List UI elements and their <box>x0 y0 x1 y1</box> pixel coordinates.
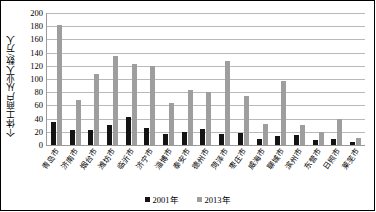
bar <box>169 103 174 145</box>
bar-group <box>309 13 328 145</box>
y-axis-tick: 0 <box>39 141 43 149</box>
bar <box>219 134 224 145</box>
legend-label: 2013年 <box>205 193 231 205</box>
bar-group <box>84 13 103 145</box>
bar-group <box>178 13 197 145</box>
plot-wrapper: 200180160140120100806040200 <box>19 13 367 156</box>
y-axis-title: 个体工商户从业人数/万人 <box>2 11 18 161</box>
bar-group <box>328 13 347 145</box>
bar-group <box>234 13 253 145</box>
bar-group <box>66 13 85 145</box>
x-axis-labels: 青岛市济南市烟台市潍坊市临沂市济宁市淄博市泰安市德州市菏泽市枣庄市威海市聊城市滨… <box>46 147 364 189</box>
bar-group <box>47 13 66 145</box>
bar <box>281 81 286 145</box>
y-axis-tick: 180 <box>30 22 43 30</box>
y-axis-tick: 120 <box>30 62 43 70</box>
y-axis-tick: 140 <box>30 49 43 57</box>
bar-group <box>122 13 141 145</box>
bar <box>113 56 118 145</box>
bar <box>150 66 155 145</box>
bar <box>356 138 361 145</box>
bar-group <box>197 13 216 145</box>
bar <box>94 74 99 145</box>
bar <box>188 90 193 145</box>
y-axis-tick: 160 <box>30 35 43 43</box>
y-axis-tick: 80 <box>35 88 44 96</box>
y-axis-tick: 60 <box>35 101 44 109</box>
chart-legend: 2001年2013年 <box>1 193 374 205</box>
legend-item[interactable]: 2001年 <box>145 193 179 205</box>
bar <box>275 136 280 145</box>
bar <box>313 140 318 145</box>
bar-group <box>215 13 234 145</box>
chart-frame: 个体工商户从业人数/万人 200180160140120100806040200… <box>0 0 375 211</box>
bar <box>300 125 305 145</box>
y-axis-tick: 100 <box>30 75 43 83</box>
bar-group <box>346 13 365 145</box>
bar <box>144 128 149 145</box>
y-axis-tick: 40 <box>35 115 44 123</box>
y-axis-tick: 20 <box>35 128 44 136</box>
bar <box>57 25 62 145</box>
legend-swatch-icon <box>197 197 202 202</box>
bar-group <box>290 13 309 145</box>
bar <box>206 92 211 145</box>
bar <box>337 119 342 145</box>
bar <box>88 130 93 145</box>
bar-group <box>253 13 272 145</box>
bar-group <box>271 13 290 145</box>
bar <box>257 139 262 145</box>
bar-group <box>103 13 122 145</box>
y-axis-ticks: 200180160140120100806040200 <box>19 13 45 145</box>
plot-area <box>46 13 365 146</box>
bar <box>244 96 249 146</box>
bar <box>51 122 56 145</box>
bar <box>331 139 336 145</box>
y-axis-tick: 200 <box>30 9 43 17</box>
bar <box>200 129 205 145</box>
bar <box>319 132 324 145</box>
bar-series-container <box>47 13 365 145</box>
bar <box>225 61 230 145</box>
bar <box>238 133 243 145</box>
legend-label: 2001年 <box>153 193 179 205</box>
x-axis-label-cell: 莱芜市 <box>345 147 364 189</box>
legend-swatch-icon <box>145 197 150 202</box>
legend-item[interactable]: 2013年 <box>197 193 231 205</box>
bar <box>182 132 187 145</box>
bar <box>76 100 81 145</box>
bar <box>263 124 268 145</box>
bar-group <box>159 13 178 145</box>
bar <box>70 130 75 145</box>
bar <box>126 117 131 145</box>
bar <box>132 64 137 145</box>
bar-group <box>141 13 160 145</box>
bar <box>163 134 168 145</box>
bar <box>294 135 299 145</box>
bar <box>107 125 112 145</box>
bar <box>350 142 355 145</box>
